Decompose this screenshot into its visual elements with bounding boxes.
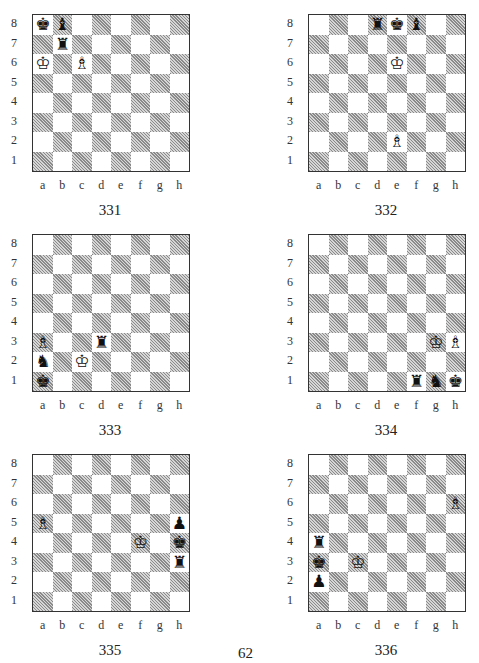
square-f2 <box>131 352 151 372</box>
rank-label: 2 <box>6 131 22 151</box>
file-label: a <box>33 398 53 413</box>
file-label: d <box>368 178 388 193</box>
square-g4 <box>150 533 170 553</box>
square-g1 <box>426 592 446 612</box>
square-b6 <box>329 274 349 294</box>
square-e4 <box>387 533 407 553</box>
square-h3 <box>170 113 190 133</box>
rank-labels: 87654321 <box>6 454 22 610</box>
file-labels: abcdefgh <box>33 398 189 413</box>
square-d4 <box>92 313 112 333</box>
file-label: e <box>111 398 131 413</box>
rank-label: 1 <box>282 371 298 391</box>
square-b8 <box>329 235 349 255</box>
square-f8 <box>131 455 151 475</box>
square-e5 <box>387 514 407 534</box>
square-e6 <box>387 274 407 294</box>
square-e1 <box>387 592 407 612</box>
page-number: 62 <box>238 645 253 662</box>
square-a8 <box>33 455 53 475</box>
square-e7 <box>387 35 407 55</box>
square-c5 <box>348 74 368 94</box>
square-d7 <box>368 35 388 55</box>
chess-board: ♔♗♜♞♚ <box>308 234 466 392</box>
square-d1 <box>92 592 112 612</box>
square-b5 <box>53 74 73 94</box>
square-g6 <box>150 274 170 294</box>
square-g3 <box>150 113 170 133</box>
white-king-icon: ♔ <box>74 353 89 370</box>
file-label: d <box>92 178 112 193</box>
square-e8 <box>111 15 131 35</box>
square-f1 <box>131 372 151 392</box>
square-f5 <box>407 294 427 314</box>
square-h5 <box>170 294 190 314</box>
square-f7 <box>407 35 427 55</box>
square-e3 <box>387 333 407 353</box>
square-e1 <box>387 152 407 172</box>
rank-label: 8 <box>6 14 22 34</box>
square-h8 <box>446 15 466 35</box>
square-e4 <box>387 93 407 113</box>
square-f1: ♜ <box>407 372 427 392</box>
square-b2 <box>53 352 73 372</box>
square-b2 <box>329 132 349 152</box>
chess-board: ♗♜♞♔♚ <box>32 234 190 392</box>
square-c8 <box>348 235 368 255</box>
square-e1 <box>111 372 131 392</box>
white-king-icon: ♔ <box>133 534 148 551</box>
file-label: f <box>407 398 427 413</box>
square-f7 <box>407 255 427 275</box>
square-c2 <box>72 132 92 152</box>
square-g5 <box>150 294 170 314</box>
square-f8 <box>131 235 151 255</box>
file-label: d <box>92 398 112 413</box>
square-c1 <box>72 152 92 172</box>
square-e6 <box>111 54 131 74</box>
square-a3 <box>33 553 53 573</box>
square-b2 <box>329 572 349 592</box>
square-b7 <box>329 255 349 275</box>
square-e3 <box>111 113 131 133</box>
square-c5 <box>348 294 368 314</box>
square-b3 <box>329 333 349 353</box>
square-h2 <box>446 572 466 592</box>
rank-label: 7 <box>6 474 22 494</box>
square-b4 <box>329 313 349 333</box>
square-a1 <box>33 592 53 612</box>
square-g6 <box>426 494 446 514</box>
square-g7 <box>426 35 446 55</box>
square-c3 <box>348 113 368 133</box>
square-e7 <box>387 255 407 275</box>
square-b6 <box>53 54 73 74</box>
file-label: b <box>329 398 349 413</box>
square-e8 <box>387 235 407 255</box>
square-d1 <box>368 592 388 612</box>
square-d5 <box>92 514 112 534</box>
rank-label: 8 <box>6 454 22 474</box>
square-c5 <box>72 294 92 314</box>
square-a4 <box>33 313 53 333</box>
file-label: h <box>446 178 466 193</box>
square-c1 <box>348 372 368 392</box>
square-d7 <box>368 255 388 275</box>
square-a6 <box>309 274 329 294</box>
diagram-number: 333 <box>32 422 188 439</box>
square-e2 <box>387 572 407 592</box>
square-h3 <box>446 113 466 133</box>
square-f8: ♝ <box>407 15 427 35</box>
rank-label: 5 <box>6 293 22 313</box>
square-c1 <box>72 592 92 612</box>
square-h6 <box>446 274 466 294</box>
rank-label: 4 <box>282 312 298 332</box>
file-label: f <box>407 178 427 193</box>
file-label: d <box>92 618 112 633</box>
square-f2 <box>407 132 427 152</box>
square-a3: ♗ <box>33 333 53 353</box>
square-b8 <box>53 455 73 475</box>
black-king-icon: ♚ <box>311 554 326 571</box>
square-e8 <box>111 455 131 475</box>
square-d3 <box>368 333 388 353</box>
square-a1 <box>309 152 329 172</box>
rank-label: 7 <box>6 34 22 54</box>
